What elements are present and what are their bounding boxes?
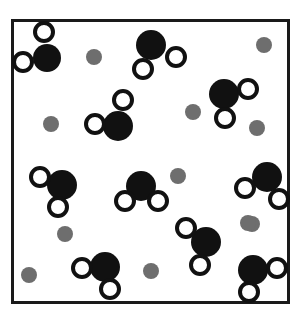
gray-particle-right-upper bbox=[249, 120, 265, 136]
water-mid-right-hydrogen-atom-2 bbox=[268, 188, 290, 210]
water-mid-left-upper-hydrogen-atom-2 bbox=[84, 113, 106, 135]
gray-particle-upper-mid bbox=[185, 104, 201, 120]
gray-particle-top-right bbox=[256, 37, 272, 53]
water-upper-right-hydrogen-atom-1 bbox=[237, 78, 259, 100]
water-top-center-hydrogen-atom-2 bbox=[165, 46, 187, 68]
water-mid-right-hydrogen-atom-1 bbox=[234, 177, 256, 199]
gray-particle-bottom-mid bbox=[143, 263, 159, 279]
water-bottom-left-hydrogen-atom-1 bbox=[71, 257, 93, 279]
water-lower-center-right-hydrogen-atom-1 bbox=[175, 217, 197, 239]
water-bottom-left-oxygen-atom bbox=[90, 252, 120, 282]
water-bottom-right-hydrogen-atom-2 bbox=[238, 281, 260, 303]
water-upper-right-oxygen-atom bbox=[209, 79, 239, 109]
water-top-left-hydrogen-atom-2 bbox=[12, 51, 34, 73]
water-center-hydrogen-atom-1 bbox=[114, 190, 136, 212]
water-center-hydrogen-atom-2 bbox=[147, 190, 169, 212]
water-mid-left-hydrogen-atom-1 bbox=[29, 166, 51, 188]
water-bottom-right-hydrogen-atom-1 bbox=[266, 257, 288, 279]
gray-particle-left-upper bbox=[43, 116, 59, 132]
water-top-center-hydrogen-atom-1 bbox=[132, 58, 154, 80]
gray-particle-top-left bbox=[86, 49, 102, 65]
gray-particle-bottom-left bbox=[21, 267, 37, 283]
water-bottom-left-hydrogen-atom-2 bbox=[99, 278, 121, 300]
water-mid-left-upper-oxygen-atom bbox=[103, 111, 133, 141]
water-lower-center-right-hydrogen-atom-2 bbox=[189, 254, 211, 276]
water-mid-left-oxygen-atom bbox=[47, 170, 77, 200]
water-top-center-oxygen-atom bbox=[136, 30, 166, 60]
gray-particle-left-mid bbox=[57, 226, 73, 242]
water-upper-right-hydrogen-atom-2 bbox=[214, 107, 236, 129]
water-top-left-hydrogen-atom-1 bbox=[33, 21, 55, 43]
diagram-canvas bbox=[0, 0, 300, 327]
gray-particle-right-lower bbox=[240, 215, 256, 231]
water-mid-left-upper-hydrogen-atom-1 bbox=[112, 89, 134, 111]
molecule-scene bbox=[0, 0, 300, 327]
water-top-left-oxygen-atom bbox=[33, 44, 61, 72]
water-bottom-right-oxygen-atom bbox=[238, 255, 268, 285]
water-mid-left-hydrogen-atom-2 bbox=[47, 196, 69, 218]
gray-particle-center bbox=[170, 168, 186, 184]
